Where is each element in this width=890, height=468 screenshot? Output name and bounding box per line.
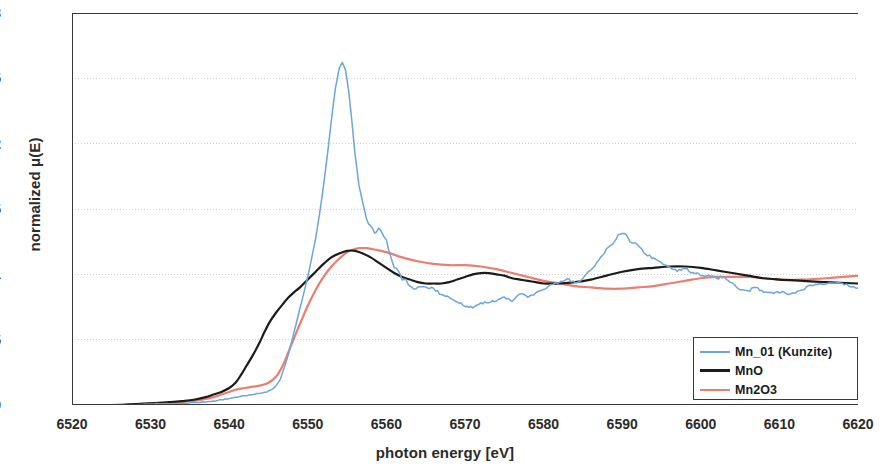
- x-axis-title: photon energy [eV]: [0, 444, 890, 461]
- x-axis-tick-label: 6580: [528, 416, 559, 432]
- legend-label: Mn_01 (Kunzite): [735, 345, 832, 359]
- legend-color-swatch: [700, 369, 730, 372]
- legend-label: Mn2O3: [735, 383, 777, 397]
- x-axis-tick-label: 6540: [214, 416, 245, 432]
- x-axis-tick-label: 6620: [842, 416, 873, 432]
- x-axis-tick-label: 6550: [292, 416, 323, 432]
- x-axis-tick-label: 6530: [135, 416, 166, 432]
- x-axis-tick-label: 6590: [607, 416, 638, 432]
- legend-item[interactable]: Mn2O3: [700, 380, 852, 399]
- legend: Mn_01 (Kunzite)MnOMn2O3: [693, 337, 858, 400]
- legend-color-swatch: [700, 389, 730, 391]
- legend-color-swatch: [700, 351, 730, 353]
- xanes-spectrum-figure: normalized μ(E) 00.511.522.53 6520653065…: [0, 0, 890, 468]
- legend-item[interactable]: MnO: [700, 361, 852, 380]
- x-axis-tick-label: 6520: [56, 416, 87, 432]
- x-axis-tick-label: 6560: [371, 416, 402, 432]
- legend-item[interactable]: Mn_01 (Kunzite): [700, 342, 852, 361]
- legend-label: MnO: [735, 364, 763, 378]
- x-axis-tick-label: 6600: [685, 416, 716, 432]
- x-axis-tick-label: 6570: [449, 416, 480, 432]
- x-axis-tick-label: 6610: [764, 416, 795, 432]
